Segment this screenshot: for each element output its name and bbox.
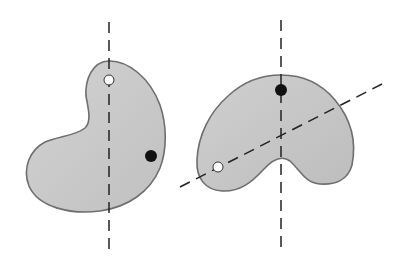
left-figure	[26, 22, 165, 252]
right-lamina-shape	[197, 75, 354, 191]
left-lamina-shape	[26, 61, 165, 212]
suspended-laminae-diagram	[0, 0, 408, 264]
left-mass-dot	[145, 150, 157, 162]
right-pivot-hole	[213, 162, 223, 172]
right-figure	[180, 20, 382, 250]
right-mass-dot	[275, 84, 287, 96]
left-pivot-hole	[104, 75, 114, 85]
